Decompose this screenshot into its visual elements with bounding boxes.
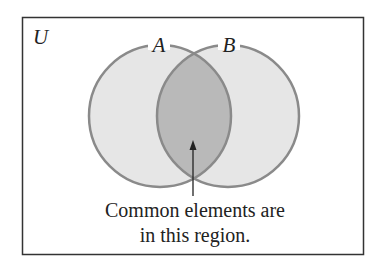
venn-diagram: U A B Common elements are in this region… [0, 0, 379, 266]
set-a-label: A [151, 33, 166, 57]
set-b-label: B [223, 33, 236, 57]
caption-line-2: in this region. [140, 224, 251, 247]
universe-label: U [33, 25, 50, 49]
caption-line-1: Common elements are [105, 199, 285, 221]
